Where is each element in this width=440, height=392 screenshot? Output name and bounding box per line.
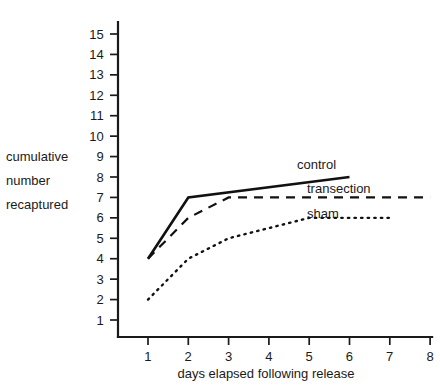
x-tick-label-4: 4 bbox=[265, 349, 272, 364]
y-axis-title-line-2: number bbox=[6, 173, 51, 188]
y-tick-label-10: 10 bbox=[89, 129, 104, 144]
y-tick-label-7: 7 bbox=[97, 190, 104, 205]
x-tick-label-3: 3 bbox=[225, 349, 232, 364]
x-tick-label-1: 1 bbox=[144, 349, 151, 364]
x-tick-label-8: 8 bbox=[426, 349, 433, 364]
y-tick-label-12: 12 bbox=[89, 88, 104, 103]
x-tick-label-7: 7 bbox=[386, 349, 393, 364]
y-tick-label-14: 14 bbox=[89, 47, 104, 62]
y-axis-title-line-1: cumulative bbox=[6, 149, 68, 164]
y-tick-label-9: 9 bbox=[97, 149, 104, 164]
y-tick-label-8: 8 bbox=[97, 170, 104, 185]
y-tick-label-3: 3 bbox=[97, 272, 104, 287]
y-tick-label-11: 11 bbox=[90, 108, 104, 123]
y-tick-label-13: 13 bbox=[89, 67, 104, 82]
x-tick-label-5: 5 bbox=[305, 349, 312, 364]
chart-figure: 123456789101112131415 12345678 controltr… bbox=[0, 0, 440, 392]
series-line-sham bbox=[148, 218, 390, 300]
y-axis-tick-labels: 123456789101112131415 bbox=[89, 27, 104, 328]
y-tick-label-6: 6 bbox=[97, 210, 104, 225]
series-label-transection: transection bbox=[307, 181, 371, 196]
chart-canvas: 123456789101112131415 12345678 controltr… bbox=[0, 0, 440, 392]
series-line-transection bbox=[148, 197, 430, 258]
series-label-sham: sham bbox=[307, 206, 339, 221]
y-axis-title-line-3: recaptured bbox=[6, 197, 68, 212]
x-tick-label-2: 2 bbox=[185, 349, 192, 364]
y-tick-label-15: 15 bbox=[89, 27, 104, 42]
y-tick-label-1: 1 bbox=[97, 313, 104, 328]
y-tick-label-4: 4 bbox=[97, 251, 104, 266]
y-axis-ticks bbox=[110, 34, 118, 320]
series-label-control: control bbox=[297, 157, 336, 172]
y-axis-title: cumulative number recaptured bbox=[6, 149, 68, 212]
x-axis-ticks bbox=[148, 337, 430, 345]
x-axis-title: days elapsed following release bbox=[177, 366, 354, 381]
y-tick-label-2: 2 bbox=[97, 292, 104, 307]
x-tick-label-6: 6 bbox=[346, 349, 353, 364]
x-axis-tick-labels: 12345678 bbox=[144, 349, 434, 364]
series-lines bbox=[148, 177, 430, 300]
y-tick-label-5: 5 bbox=[97, 231, 104, 246]
series-inline-labels: controltransectionsham bbox=[297, 157, 371, 221]
